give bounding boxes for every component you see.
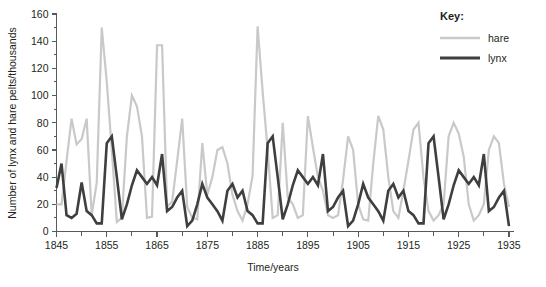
x-tick-label: 1915 bbox=[397, 239, 421, 251]
x-tick-label: 1845 bbox=[45, 239, 69, 251]
legend-label-lynx: lynx bbox=[488, 52, 507, 64]
chart-canvas: 020406080100120140160 184518551865187518… bbox=[0, 0, 546, 287]
y-tick-label: 80 bbox=[37, 117, 49, 129]
y-tick-label: 20 bbox=[37, 198, 49, 210]
legend-title: Key: bbox=[440, 10, 464, 22]
x-tick-label: 1895 bbox=[296, 239, 320, 251]
x-tick-label: 1865 bbox=[145, 239, 169, 251]
x-axis-group: 1845185518651875188518951905191519251935 bbox=[45, 232, 521, 251]
y-tick-label: 160 bbox=[31, 8, 49, 20]
x-axis-tick-labels: 1845185518651875188518951905191519251935 bbox=[45, 239, 521, 251]
x-axis-title: Time/years bbox=[247, 261, 299, 273]
data-series-group bbox=[57, 26, 509, 226]
legend-entries: harelynx bbox=[440, 32, 509, 64]
chart-legend: Key: harelynx bbox=[440, 10, 509, 64]
y-tick-label: 120 bbox=[31, 62, 49, 74]
y-tick-label: 40 bbox=[37, 171, 49, 183]
y-axis-title: Number of lynx and hare pelts/thousands bbox=[6, 27, 18, 218]
x-tick-label: 1905 bbox=[346, 239, 370, 251]
y-axis-tick-labels: 020406080100120140160 bbox=[31, 8, 49, 238]
x-tick-label: 1885 bbox=[246, 239, 270, 251]
x-tick-label: 1855 bbox=[95, 239, 119, 251]
x-tick-label: 1935 bbox=[497, 239, 521, 251]
y-axis-group: 020406080100120140160 bbox=[31, 8, 57, 238]
x-tick-label: 1875 bbox=[196, 239, 220, 251]
lynx-hare-population-chart: 020406080100120140160 184518551865187518… bbox=[0, 0, 546, 287]
y-tick-label: 140 bbox=[31, 35, 49, 47]
y-tick-label: 0 bbox=[43, 225, 49, 237]
y-tick-label: 60 bbox=[37, 144, 49, 156]
x-tick-label: 1925 bbox=[447, 239, 471, 251]
y-tick-label: 100 bbox=[31, 89, 49, 101]
legend-label-hare: hare bbox=[488, 32, 509, 44]
